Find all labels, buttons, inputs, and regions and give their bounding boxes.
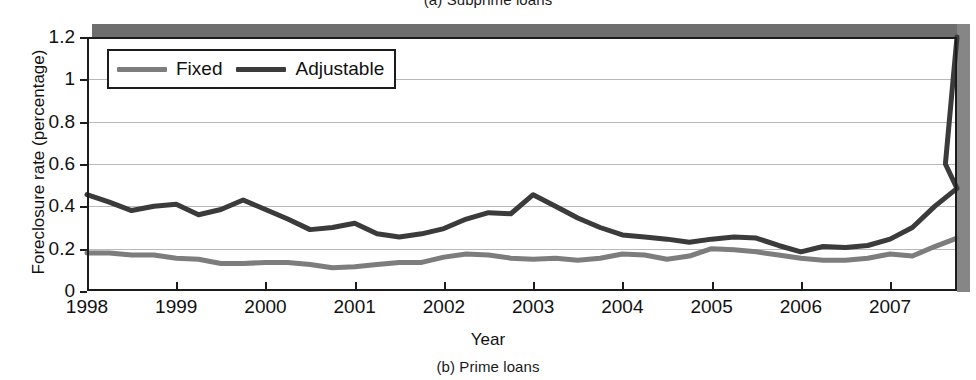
legend-swatch-adjustable <box>236 67 286 72</box>
y-tick-label: 1 <box>64 68 75 90</box>
legend-label-adjustable: Adjustable <box>295 58 384 80</box>
chart-legend: FixedAdjustable <box>107 49 396 89</box>
y-tick-label: 0.8 <box>49 111 75 133</box>
y-tick-mark <box>80 249 87 251</box>
y-tick-label: 0.4 <box>49 195 75 217</box>
y-tick-mark <box>80 37 87 39</box>
figure-caption-bottom: (b) Prime loans <box>0 358 976 375</box>
plot-area: 00.20.40.60.811.2 1998199920002001200220… <box>87 37 957 291</box>
y-tick-label: 0.2 <box>49 238 75 260</box>
scan-shadow-top-edge <box>92 24 970 37</box>
x-tick-label: 2002 <box>423 296 465 318</box>
x-tick-label: 2004 <box>601 296 643 318</box>
x-tick-label: 2007 <box>869 296 911 318</box>
x-axis-label: Year <box>0 330 976 350</box>
y-tick-mark <box>80 122 87 124</box>
x-tick-label: 2003 <box>512 296 554 318</box>
y-tick-mark <box>80 206 87 208</box>
y-tick-label: 1.2 <box>49 26 75 48</box>
y-tick-mark <box>80 291 87 293</box>
y-axis-label: Foreclosure rate (percentage) <box>29 17 49 307</box>
figure-container: (a) Subprime loans Foreclosure rate (per… <box>0 0 976 380</box>
y-tick-mark <box>80 164 87 166</box>
legend-entry-adjustable: Adjustable <box>236 58 384 80</box>
legend-entry-fixed: Fixed <box>117 58 222 80</box>
x-tick-label: 2005 <box>690 296 732 318</box>
figure-caption-top: (a) Subprime loans <box>0 0 976 8</box>
x-tick-label: 2006 <box>780 296 822 318</box>
x-tick-label: 2001 <box>334 296 376 318</box>
x-tick-label: 1998 <box>66 296 108 318</box>
x-tick-label: 1999 <box>155 296 197 318</box>
scan-shadow-right-edge <box>957 24 970 292</box>
legend-label-fixed: Fixed <box>176 58 222 80</box>
y-tick-mark <box>80 79 87 81</box>
y-tick-label: 0.6 <box>49 153 75 175</box>
series-line-fixed <box>87 238 957 268</box>
legend-swatch-fixed <box>117 67 167 72</box>
x-tick-label: 2000 <box>244 296 286 318</box>
